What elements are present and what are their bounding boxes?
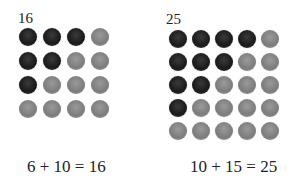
light-dot [238, 122, 256, 140]
light-dot [192, 99, 210, 117]
equation-25: 10 + 15 = 25 [190, 158, 277, 175]
light-dot [261, 30, 279, 48]
light-dot [238, 76, 256, 94]
light-dot [67, 100, 85, 118]
dark-dot [43, 52, 61, 70]
dark-dot [67, 28, 85, 46]
light-dot [261, 76, 279, 94]
dark-dot [192, 76, 210, 94]
light-dot [238, 99, 256, 117]
light-dot [215, 99, 233, 117]
light-dot [215, 122, 233, 140]
dark-dot [192, 30, 210, 48]
light-dot [67, 76, 85, 94]
light-dot [215, 76, 233, 94]
dark-dot [169, 99, 187, 117]
dark-dot [169, 76, 187, 94]
light-dot [91, 76, 109, 94]
dark-dot [238, 30, 256, 48]
dark-dot [43, 28, 61, 46]
light-dot [43, 100, 61, 118]
dark-dot [19, 76, 37, 94]
light-dot [261, 122, 279, 140]
dark-dot [19, 28, 37, 46]
dark-dot [169, 53, 187, 71]
equation-16: 6 + 10 = 16 [27, 158, 106, 175]
light-dot [91, 28, 109, 46]
light-dot [261, 99, 279, 117]
dark-dot [215, 30, 233, 48]
light-dot [261, 53, 279, 71]
light-dot [238, 53, 256, 71]
dark-dot [215, 53, 233, 71]
light-dot [192, 122, 210, 140]
light-dot [67, 52, 85, 70]
light-dot [19, 100, 37, 118]
dot-grid-5x5 [169, 30, 279, 140]
light-dot [43, 76, 61, 94]
light-dot [91, 52, 109, 70]
dot-grid-4x4 [19, 28, 109, 118]
figure-label-25: 25 [166, 12, 181, 27]
dark-dot [19, 52, 37, 70]
figure-label-16: 16 [18, 11, 33, 26]
light-dot [169, 122, 187, 140]
light-dot [91, 100, 109, 118]
dark-dot [169, 30, 187, 48]
dark-dot [192, 53, 210, 71]
